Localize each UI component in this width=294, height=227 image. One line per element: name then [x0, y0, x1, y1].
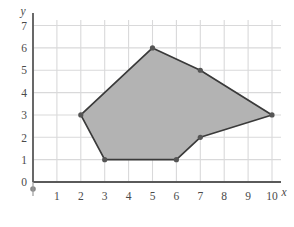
x-tick-label: 2: [78, 190, 84, 202]
x-tick-label: 1: [54, 190, 60, 202]
y-axis-label: y: [19, 5, 26, 18]
y-tick-label: 7: [21, 20, 27, 32]
y-tick-label: 5: [21, 64, 27, 76]
y-tick-label: 0: [21, 176, 27, 188]
x-axis-label: x: [280, 186, 287, 198]
x-tick-label: 3: [102, 190, 108, 202]
vertex-point: [269, 112, 274, 117]
x-tick-label: 4: [126, 190, 132, 202]
vertex-point: [102, 157, 107, 162]
vertex-point: [198, 68, 203, 73]
polygon-region: [81, 48, 272, 160]
y-tick-label: 1: [21, 154, 27, 166]
x-tick-label: 5: [150, 190, 156, 202]
coordinate-plane-figure: 1234567891001234567 xy: [0, 0, 294, 227]
plot-svg: 1234567891001234567 xy: [0, 0, 294, 227]
y-tick-label: 2: [21, 132, 27, 144]
vertex-point: [78, 112, 83, 117]
vertex-point: [174, 157, 179, 162]
y-tick-label: 4: [21, 87, 27, 99]
x-tick-label: 7: [197, 190, 203, 202]
x-tick-label: 6: [174, 190, 180, 202]
vertex-point: [150, 45, 155, 50]
vertex-point: [198, 135, 203, 140]
y-tick-label: 3: [21, 109, 27, 121]
x-tick-label: 10: [266, 190, 278, 202]
x-tick-label: 8: [221, 190, 227, 202]
x-tick-label: 9: [245, 190, 251, 202]
polygon-shape: [81, 48, 272, 160]
y-tick-label: 6: [21, 42, 27, 54]
